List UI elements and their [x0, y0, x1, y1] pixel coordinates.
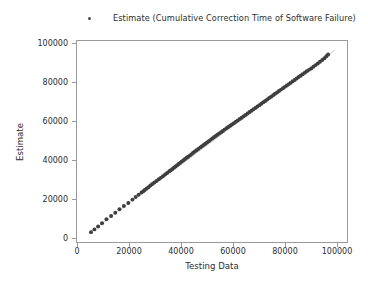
- legend-label: Estimate (Cumulative Correction Time of …: [113, 13, 356, 23]
- x-tick-label: 60000: [220, 247, 245, 256]
- scatter-plot-canvas: [77, 41, 347, 242]
- y-tick-label: 20000: [43, 195, 68, 204]
- chart-legend: Estimate (Cumulative Correction Time of …: [86, 10, 356, 26]
- x-tick-label: 0: [74, 247, 79, 256]
- x-tick-mark: [181, 243, 182, 247]
- x-tick-mark: [337, 243, 338, 247]
- x-axis-label: Testing Data: [76, 261, 348, 271]
- x-tick-mark: [129, 243, 130, 247]
- x-tick-label: 100000: [322, 247, 353, 256]
- x-tick-mark: [285, 243, 286, 247]
- plot-area: [76, 40, 348, 243]
- y-tick-label: 0: [63, 234, 68, 243]
- y-tick-label: 100000: [37, 39, 68, 48]
- x-tick-label: 20000: [116, 247, 141, 256]
- y-tick-label: 60000: [43, 117, 68, 126]
- y-tick-label: 80000: [43, 78, 68, 87]
- chart-figure: Estimate (Cumulative Correction Time of …: [0, 0, 368, 284]
- y-axis-label-text: Estimate: [15, 123, 25, 161]
- legend-marker-icon: [88, 17, 91, 20]
- x-tick-mark: [233, 243, 234, 247]
- x-tick-mark: [77, 243, 78, 247]
- x-tick-label: 40000: [168, 247, 193, 256]
- x-tick-label: 80000: [272, 247, 297, 256]
- y-tick-label: 40000: [43, 156, 68, 165]
- y-axis-label: Estimate: [14, 40, 26, 243]
